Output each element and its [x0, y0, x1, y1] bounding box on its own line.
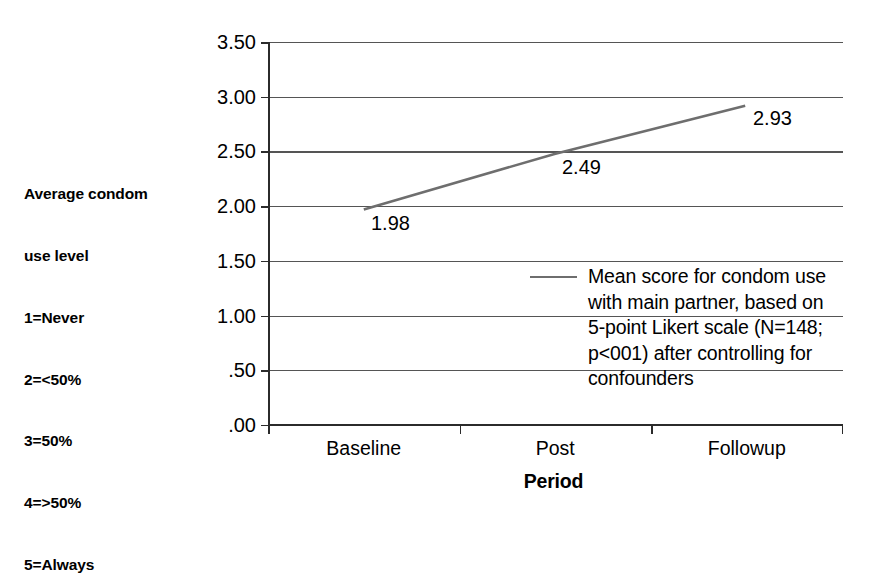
gridline-3-50	[268, 42, 843, 43]
y-axis-caption-line-3: 1=Never	[24, 308, 204, 329]
y-axis-caption: Average condom use level 1=Never 2=<50% …	[24, 143, 204, 577]
y-axis-caption-line-2: use level	[24, 246, 204, 267]
y-tick-1-50	[261, 261, 269, 263]
legend-item-mean-condom-use: Mean score for condom use with main part…	[528, 264, 848, 392]
x-axis-title-wrapper: Period	[0, 470, 873, 493]
x-axis-line	[268, 424, 843, 426]
y-axis-caption-line-7: 5=Always	[24, 555, 204, 576]
y-axis-caption-line-1: Average condom	[24, 184, 204, 205]
y-tick-2-50	[261, 151, 269, 153]
x-tick-label-post: Post	[460, 437, 652, 459]
gridline-3-00	[268, 97, 843, 98]
y-tick-label-3-00: 3.00	[186, 87, 256, 107]
x-axis-title: Period	[524, 470, 583, 493]
x-tick-start	[268, 425, 270, 434]
gridline-1-50	[268, 261, 843, 262]
y-tick-label-0-00: .00	[186, 415, 256, 435]
y-tick-label-2-50: 2.50	[186, 141, 256, 161]
y-axis-line	[268, 42, 270, 426]
y-axis-caption-line-6: 4=>50%	[24, 493, 204, 514]
x-tick-label-baseline: Baseline	[268, 437, 460, 459]
y-tick-3-50	[261, 42, 269, 44]
y-tick-1-00	[261, 316, 269, 318]
point-label-baseline: 1.98	[371, 213, 410, 233]
x-tick-post-followup	[651, 425, 653, 434]
y-tick-0-50	[261, 370, 269, 372]
x-tick-end	[842, 425, 844, 434]
point-label-post: 2.49	[562, 157, 601, 177]
y-tick-label-3-50: 3.50	[186, 32, 256, 52]
gridline-2-50	[268, 151, 843, 152]
point-label-followup: 2.93	[753, 108, 792, 128]
x-tick-label-followup: Followup	[651, 437, 843, 459]
y-tick-3-00	[261, 97, 269, 99]
y-axis-caption-line-4: 2=<50%	[24, 370, 204, 391]
y-tick-label-0-50: .50	[186, 360, 256, 380]
y-tick-2-00	[261, 206, 269, 208]
y-tick-label-1-50: 1.50	[186, 251, 256, 271]
y-tick-label-2-00: 2.00	[186, 196, 256, 216]
legend-line-swatch-icon	[528, 264, 578, 288]
y-tick-label-1-00: 1.00	[186, 306, 256, 326]
y-axis-caption-line-5: 3=50%	[24, 431, 204, 452]
legend-item-label: Mean score for condom use with main part…	[588, 264, 826, 392]
series-line-mean-condom-use	[364, 106, 745, 210]
legend: Mean score for condom use with main part…	[528, 264, 848, 392]
x-tick-baseline-post	[460, 425, 462, 434]
gridline-2-00	[268, 206, 843, 207]
